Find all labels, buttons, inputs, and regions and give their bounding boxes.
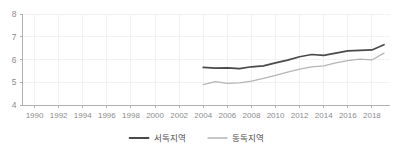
legend-label-1[interactable]: 서독지역	[154, 133, 186, 143]
series-line-1	[203, 45, 384, 69]
x-tick-label: 1994	[74, 111, 92, 120]
x-tick-label: 1990	[26, 111, 44, 120]
gridlines	[23, 14, 391, 105]
x-tick-label: 2014	[315, 111, 333, 120]
line-chart: 45678 1990199219941996199820002002200420…	[0, 0, 396, 151]
chart-canvas: 45678 1990199219941996199820002002200420…	[0, 0, 396, 151]
x-tick-label: 2006	[218, 111, 236, 120]
x-tick-label: 2008	[243, 111, 261, 120]
x-tick-label: 2002	[170, 111, 188, 120]
y-tick-label: 4	[12, 100, 17, 110]
x-tick-label: 1998	[122, 111, 140, 120]
x-tick-label: 2012	[291, 111, 309, 120]
y-tick-label: 5	[12, 77, 17, 87]
x-tick-label: 1992	[50, 111, 68, 120]
y-tick-label: 8	[12, 9, 17, 19]
legend-label-2[interactable]: 동독지역	[232, 133, 264, 143]
y-tick-label: 6	[12, 55, 17, 65]
chart-legend: 서독지역동독지역	[130, 133, 264, 143]
y-tick-label: 7	[12, 32, 17, 42]
x-tick-label: 2000	[146, 111, 164, 120]
x-tick-label: 1996	[98, 111, 116, 120]
x-tick-label: 2018	[363, 111, 381, 120]
x-tick-label: 2010	[267, 111, 285, 120]
y-axis-ticks: 45678	[12, 9, 23, 110]
x-tick-label: 2016	[339, 111, 357, 120]
data-series	[203, 45, 384, 85]
x-tick-label: 2004	[194, 111, 212, 120]
x-axis-ticks: 1990199219941996199820002002200420062008…	[26, 105, 382, 120]
